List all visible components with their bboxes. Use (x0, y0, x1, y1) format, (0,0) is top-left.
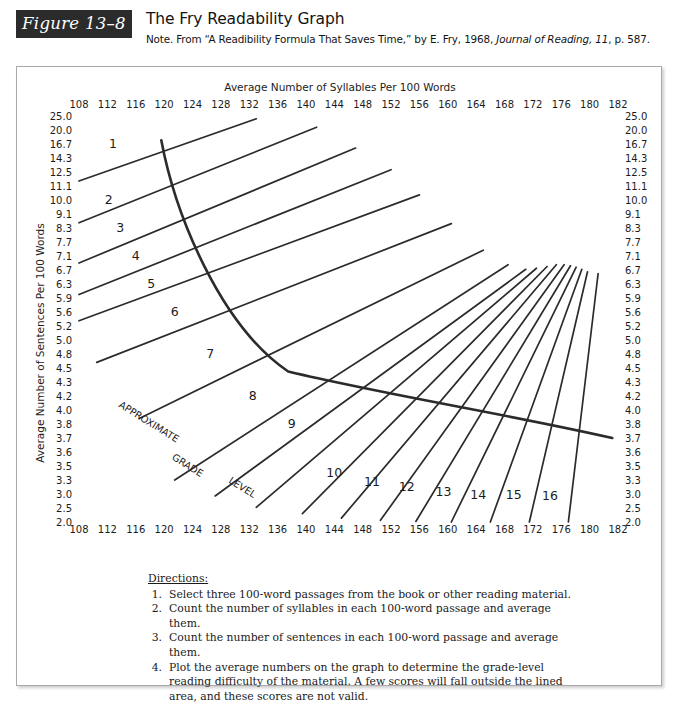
y-tick-left-8.3: 8.3 (56, 223, 72, 234)
y-tick-left-20.0: 20.0 (50, 125, 72, 136)
grade-boundary-line-5 (97, 224, 452, 363)
x-tick-top-128: 128 (211, 99, 230, 110)
y-tick-right-9.1: 9.1 (625, 209, 641, 220)
x-tick-bottom-144: 144 (325, 524, 344, 535)
x-tick-top-108: 108 (69, 99, 88, 110)
y-tick-right-5.0: 5.0 (625, 335, 641, 346)
x-tick-top-180: 180 (580, 99, 599, 110)
list-item-number: 3. (148, 631, 162, 646)
y-tick-right-4.0: 4.0 (625, 405, 641, 416)
x-tick-bottom-180: 180 (580, 524, 599, 535)
x-tick-top-132: 132 (240, 99, 259, 110)
grade-boundary-line-3 (79, 170, 391, 295)
x-tick-top-164: 164 (467, 99, 486, 110)
list-item-number: 2. (148, 602, 162, 617)
y-tick-right-2.0: 2.0 (625, 517, 641, 528)
region-annotation-0: APPROXIMATE (117, 399, 181, 445)
x-tick-top-148: 148 (353, 99, 372, 110)
x-tick-bottom-116: 116 (126, 524, 145, 535)
x-tick-bottom-164: 164 (467, 524, 486, 535)
long-words-boundary-curve (161, 140, 612, 438)
y-tick-left-25.0: 25.0 (50, 111, 72, 122)
list-item: 4. Plot the average numbers on the graph… (148, 661, 578, 704)
y-tick-left-6.3: 6.3 (56, 279, 72, 290)
y-axis-title: Average Number of Sentences Per 100 Word… (34, 198, 46, 488)
list-item: 1. Select three 100-word passages from t… (148, 588, 578, 603)
x-tick-bottom-140: 140 (296, 524, 315, 535)
list-item-number: 1. (148, 588, 162, 603)
y-tick-left-16.7: 16.7 (50, 139, 72, 150)
y-tick-left-11.1: 11.1 (50, 181, 72, 192)
x-tick-bottom-172: 172 (523, 524, 542, 535)
x-tick-bottom-112: 112 (98, 524, 117, 535)
grade-label-7: 7 (206, 346, 214, 361)
y-tick-left-3.3: 3.3 (56, 475, 72, 486)
directions-heading: Directions: (148, 572, 578, 587)
y-tick-left-7.7: 7.7 (56, 237, 72, 248)
region-annotation-1: GRADE (170, 451, 205, 479)
grade-label-8: 8 (249, 388, 257, 403)
grade-boundary-line-7 (175, 265, 508, 480)
figure-frame: Average Number of Syllables Per 100 Word… (16, 66, 662, 686)
y-tick-left-4.8: 4.8 (56, 349, 72, 360)
list-item-text: Select three 100-word passages from the … (169, 588, 571, 601)
y-tick-right-7.1: 7.1 (625, 251, 641, 262)
y-tick-right-3.7: 3.7 (625, 433, 641, 444)
y-tick-right-6.7: 6.7 (625, 265, 641, 276)
y-tick-left-3.6: 3.6 (56, 447, 72, 458)
y-tick-right-3.8: 3.8 (625, 419, 641, 430)
grade-label-5: 5 (147, 276, 155, 291)
grade-boundary-line-16 (529, 272, 587, 522)
chart-canvas: 1081081121121161161201201241241281281321… (17, 67, 663, 567)
grade-boundary-line-17 (568, 274, 598, 523)
y-tick-right-2.5: 2.5 (625, 503, 641, 514)
x-tick-top-120: 120 (155, 99, 174, 110)
x-tick-top-152: 152 (382, 99, 401, 110)
x-tick-top-182: 182 (608, 99, 627, 110)
list-item: 2. Count the number of syllables in each… (148, 602, 578, 631)
grade-label-6: 6 (171, 304, 179, 319)
y-tick-right-8.3: 8.3 (625, 223, 641, 234)
y-tick-right-3.0: 3.0 (625, 489, 641, 500)
y-tick-left-3.0: 3.0 (56, 489, 72, 500)
list-item: 3. Count the number of sentences in each… (148, 631, 578, 660)
x-tick-bottom-132: 132 (240, 524, 259, 535)
y-tick-right-5.6: 5.6 (625, 307, 641, 318)
y-tick-right-7.7: 7.7 (625, 237, 641, 248)
grade-boundary-line-6 (139, 250, 483, 418)
note-prefix: Note. From “A Readibility Formula That S… (146, 33, 496, 45)
y-tick-left-3.5: 3.5 (56, 461, 72, 472)
grade-label-14: 14 (470, 487, 486, 502)
x-tick-top-144: 144 (325, 99, 344, 110)
y-tick-left-5.6: 5.6 (56, 307, 72, 318)
figure-number-badge: Figure 13–8 (16, 10, 132, 38)
y-tick-left-10.0: 10.0 (50, 195, 72, 206)
list-item-text: Count the number of syllables in each 10… (169, 602, 551, 630)
grade-label-9: 9 (288, 416, 296, 431)
y-tick-right-5.2: 5.2 (625, 321, 641, 332)
x-tick-bottom-176: 176 (552, 524, 571, 535)
x-tick-bottom-128: 128 (211, 524, 230, 535)
y-tick-left-4.0: 4.0 (56, 405, 72, 416)
y-tick-left-5.0: 5.0 (56, 335, 72, 346)
y-tick-left-4.2: 4.2 (56, 391, 72, 402)
grade-label-16: 16 (542, 488, 558, 503)
y-tick-right-5.9: 5.9 (625, 293, 641, 304)
x-tick-bottom-156: 156 (410, 524, 429, 535)
y-tick-right-4.2: 4.2 (625, 391, 641, 402)
x-tick-top-124: 124 (183, 99, 202, 110)
y-tick-right-12.5: 12.5 (625, 167, 647, 178)
y-tick-right-3.5: 3.5 (625, 461, 641, 472)
x-tick-bottom-136: 136 (268, 524, 287, 535)
y-tick-right-11.1: 11.1 (625, 181, 647, 192)
x-tick-top-168: 168 (495, 99, 514, 110)
x-tick-bottom-168: 168 (495, 524, 514, 535)
fry-readability-chart: Average Number of Syllables Per 100 Word… (17, 67, 663, 567)
list-item-text: Count the number of sentences in each 10… (169, 631, 558, 659)
x-tick-top-112: 112 (98, 99, 117, 110)
grade-label-3: 3 (116, 220, 124, 235)
grade-boundary-line-9 (256, 268, 536, 507)
y-tick-left-5.2: 5.2 (56, 321, 72, 332)
x-tick-top-140: 140 (296, 99, 315, 110)
y-tick-right-10.0: 10.0 (625, 195, 647, 206)
